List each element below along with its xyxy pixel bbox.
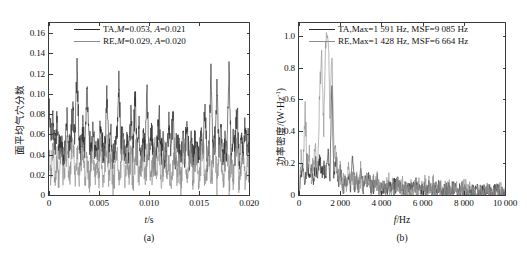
x-tick-label: 4 000 <box>372 198 392 208</box>
y-tick-label: 0.16 <box>0 28 45 38</box>
y-tick-right <box>503 99 506 100</box>
plot-area-a <box>48 22 250 196</box>
y-tick-label: 0.02 <box>0 170 45 180</box>
x-tick <box>149 191 150 195</box>
x-tick-top <box>249 23 250 26</box>
x-tick-label: 0.010 <box>139 198 159 208</box>
y-tick-right <box>247 114 250 115</box>
x-tick <box>249 191 250 195</box>
series-line-ta <box>299 86 505 195</box>
y-tick-right <box>247 134 250 135</box>
x-tick <box>505 191 506 195</box>
x-tick-label: 0 <box>297 198 301 208</box>
y-tick <box>49 94 53 95</box>
x-tick-top <box>49 23 50 26</box>
y-tick-right <box>503 68 506 69</box>
y-tick-right <box>503 195 506 196</box>
figure-container: TA,M=0.053, A=0.021 RE,M=0.029, A=0.020 … <box>0 0 527 256</box>
x-tick-label: 2 000 <box>330 198 350 208</box>
legend-item-ta: TA,M=0.053, A=0.021 <box>74 24 186 36</box>
y-tick-label: 0.04 <box>0 150 45 160</box>
legend-label-ta: TA,Max=1 591 Hz, MSF=9 085 Hz <box>338 24 468 36</box>
y-tick-right <box>503 36 506 37</box>
legend-line-ta-icon <box>309 29 335 30</box>
y-tick-right <box>247 195 250 196</box>
y-tick-label: 0.08 <box>0 109 45 119</box>
legend-item-re: RE,M=0.029, A=0.020 <box>74 36 186 48</box>
y-tick-right <box>247 94 250 95</box>
y-tick-label: 0.8 <box>263 63 295 73</box>
y-tick-right <box>503 131 506 132</box>
y-tick <box>299 195 303 196</box>
y-tick-label: 0.14 <box>0 48 45 58</box>
legend-line-ta-icon <box>74 29 100 30</box>
caption-b: (b) <box>396 232 407 243</box>
legend-label-re: RE,M=0.029, A=0.020 <box>103 36 186 48</box>
x-tick <box>423 191 424 195</box>
x-tick-label: 0 <box>47 198 51 208</box>
x-tick-top <box>199 23 200 26</box>
x-tick-label: 0.020 <box>239 198 259 208</box>
x-tick <box>381 191 382 195</box>
y-tick <box>49 175 53 176</box>
x-tick-label: 0.005 <box>89 198 109 208</box>
y-tick-right <box>247 74 250 75</box>
y-tick-label: 0.12 <box>0 69 45 79</box>
y-tick <box>49 74 53 75</box>
y-tick <box>299 99 303 100</box>
panel-a: TA,M=0.053, A=0.021 RE,M=0.029, A=0.020 … <box>0 0 263 256</box>
y-tick-label: 0.06 <box>0 129 45 139</box>
x-tick-label: 8 000 <box>454 198 474 208</box>
legend-item-ta: TA,Max=1 591 Hz, MSF=9 085 Hz <box>309 24 468 36</box>
y-tick <box>49 134 53 135</box>
panel-b: TA,Max=1 591 Hz, MSF=9 085 Hz RE,Max=1 4… <box>263 0 527 256</box>
plot-lines-a <box>49 23 249 195</box>
x-tick <box>99 191 100 195</box>
y-tick-label: 0 <box>263 190 295 200</box>
y-tick <box>49 53 53 54</box>
y-tick <box>49 155 53 156</box>
x-tick-label: 10 000 <box>493 198 517 208</box>
y-tick <box>299 36 303 37</box>
y-tick-right <box>247 155 250 156</box>
x-tick <box>340 191 341 195</box>
y-tick-right <box>247 53 250 54</box>
y-tick-label: 0.10 <box>0 89 45 99</box>
y-tick-label: 0.6 <box>263 94 295 104</box>
x-axis-title-b: f/Hz <box>394 214 411 225</box>
x-tick-label: 6 000 <box>413 198 433 208</box>
y-tick <box>299 68 303 69</box>
y-tick-label: 0 <box>0 190 45 200</box>
caption-a: (a) <box>144 232 155 243</box>
y-tick-right <box>247 175 250 176</box>
x-tick <box>299 191 300 195</box>
x-tick-top <box>299 23 300 26</box>
x-tick <box>199 191 200 195</box>
y-tick-label: 0.2 <box>263 158 295 168</box>
y-tick <box>299 163 303 164</box>
y-tick <box>49 195 53 196</box>
x-tick <box>49 191 50 195</box>
plot-lines-b <box>299 23 505 195</box>
x-tick-label: 0.015 <box>189 198 209 208</box>
legend-b: TA,Max=1 591 Hz, MSF=9 085 Hz RE,Max=1 4… <box>309 24 468 47</box>
y-tick-right <box>503 163 506 164</box>
legend-line-re-icon <box>74 41 100 42</box>
plot-area-b <box>298 22 506 196</box>
legend-a: TA,M=0.053, A=0.021 RE,M=0.029, A=0.020 <box>74 24 186 47</box>
y-tick-label: 0.4 <box>263 126 295 136</box>
y-tick <box>299 131 303 132</box>
legend-item-re: RE,Max=1 428 Hz, MSF=6 664 Hz <box>309 36 468 48</box>
x-axis-title-a: t/s <box>144 214 153 225</box>
legend-label-ta: TA,M=0.053, A=0.021 <box>103 24 186 36</box>
x-tick-top <box>505 23 506 26</box>
x-tick <box>464 191 465 195</box>
legend-label-re: RE,Max=1 428 Hz, MSF=6 664 Hz <box>338 36 468 48</box>
y-tick-right <box>247 33 250 34</box>
y-tick <box>49 114 53 115</box>
y-tick-label: 1.0 <box>263 31 295 41</box>
y-tick <box>49 33 53 34</box>
legend-line-re-icon <box>309 41 335 42</box>
